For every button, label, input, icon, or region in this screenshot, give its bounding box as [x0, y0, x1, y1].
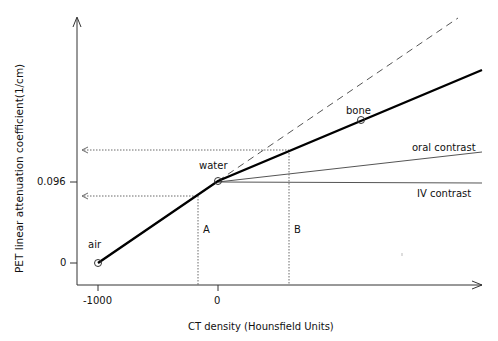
iv-contrast-line: [218, 182, 482, 183]
ytick-label-0: 0: [60, 258, 66, 268]
marker-B-label: B: [294, 225, 301, 235]
oral-contrast-line: [218, 152, 482, 182]
bone-label: bone: [346, 106, 371, 116]
bilinear-conversion-line: [98, 70, 482, 263]
ytick-label-0096: 0.096: [37, 177, 66, 187]
y-axis-title: PET linear attenuation coefficient(1/cm): [14, 64, 25, 273]
iv-contrast-label: IV contrast: [417, 189, 471, 199]
diagram-canvas: [0, 0, 498, 341]
x-axis-title: CT density (Hounsfield Units): [188, 322, 334, 332]
xtick-label-neg1000: -1000: [83, 296, 112, 306]
marker-A-label: A: [203, 225, 210, 235]
dashed-extrapolation-line: [218, 18, 458, 181]
water-label: water: [199, 161, 228, 171]
oral-contrast-label: oral contrast: [412, 143, 476, 153]
xtick-label-0: 0: [214, 296, 220, 306]
air-label: air: [88, 240, 101, 250]
